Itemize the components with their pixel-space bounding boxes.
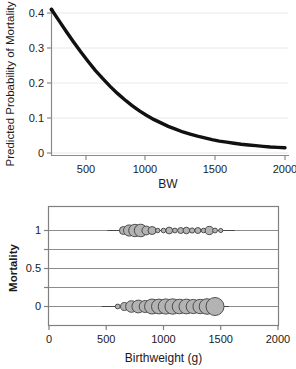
bubble-marker — [173, 228, 178, 233]
bottom-chart-xtick-label-4: 2000 — [266, 333, 290, 345]
bottom-chart-xtick-label-1: 500 — [97, 333, 115, 345]
bottom-chart-xtick-label-3: 1500 — [208, 333, 232, 345]
bubble-marker — [161, 228, 166, 233]
top-chart-ytick-label-1: 0.3 — [29, 42, 44, 54]
bottom-chart-ytick-label-1: 1 — [35, 224, 41, 236]
predicted-probability-curve — [52, 10, 286, 148]
top-chart-ytick-label-0: 0.4 — [29, 7, 44, 19]
bubble-marker — [195, 228, 201, 234]
top-chart-y-axis-title: Predicted Probability of Mortality — [4, 1, 16, 166]
top-chart-x-axis-title: BW — [158, 177, 178, 190]
bubble-marker — [205, 226, 213, 234]
bubble-marker — [213, 228, 218, 233]
mortality-bubble-chart-panel: 1 0.5 0 0 500 1000 1500 2000 Mortality B… — [0, 190, 296, 369]
top-chart-y-ticks — [47, 13, 52, 153]
top-chart-xtick-label-2: 1500 — [203, 163, 227, 175]
bubble-marker — [156, 228, 160, 232]
top-chart-xtick-label-3: 2000 — [273, 163, 296, 175]
top-chart-gridlines — [52, 13, 288, 153]
bottom-chart-y-axis-title: Mortality — [7, 243, 19, 292]
mortality-0-bubble-group — [102, 298, 229, 316]
bottom-chart-x-ticks — [49, 326, 278, 331]
predicted-probability-chart: 0.4 0.3 0.2 0.1 0 500 1000 1500 2000 Pre… — [0, 0, 296, 190]
mortality-bubble-chart: 1 0.5 0 0 500 1000 1500 2000 Mortality B… — [0, 190, 296, 369]
bottom-chart-ytick-label-0: 0 — [35, 300, 41, 312]
mortality-1-bubble-group — [107, 224, 234, 237]
bubble-marker — [115, 304, 120, 309]
bubble-marker — [190, 228, 195, 233]
figure-container: 0.4 0.3 0.2 0.1 0 500 1000 1500 2000 Pre… — [0, 0, 296, 369]
predicted-probability-chart-panel: 0.4 0.3 0.2 0.1 0 500 1000 1500 2000 Pre… — [0, 0, 296, 190]
bottom-chart-gridlines — [49, 231, 278, 307]
top-chart-x-ticks — [86, 156, 285, 161]
bubble-marker — [183, 227, 190, 234]
bottom-chart-x-axis-title: Birthweight (g) — [125, 351, 202, 365]
bottom-chart-xtick-label-0: 0 — [46, 333, 52, 345]
bottom-chart-ytick-label-05: 0.5 — [26, 262, 41, 274]
bubble-marker — [206, 298, 224, 316]
curve-start-marker — [50, 8, 54, 12]
bottom-chart-xtick-label-2: 1000 — [151, 333, 175, 345]
top-chart-ytick-label-4: 0 — [38, 147, 44, 159]
top-chart-xtick-label-0: 500 — [77, 163, 95, 175]
bottom-chart-y-ticks — [44, 231, 49, 307]
bubble-marker — [148, 227, 156, 235]
top-chart-ytick-label-2: 0.2 — [29, 77, 44, 89]
bubble-marker — [166, 227, 173, 234]
bubble-marker — [219, 228, 223, 232]
top-chart-ytick-label-3: 0.1 — [29, 112, 44, 124]
top-chart-xtick-label-1: 1000 — [133, 163, 157, 175]
